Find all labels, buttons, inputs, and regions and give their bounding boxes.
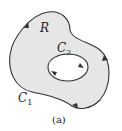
outer-curve-label: C1 [18,92,32,107]
region-label: R [40,22,49,34]
arrow-icon [78,63,84,68]
region-diagram [0,0,122,131]
figure-caption: (a) [52,115,66,125]
inner-curve-label: C2 [57,42,71,57]
